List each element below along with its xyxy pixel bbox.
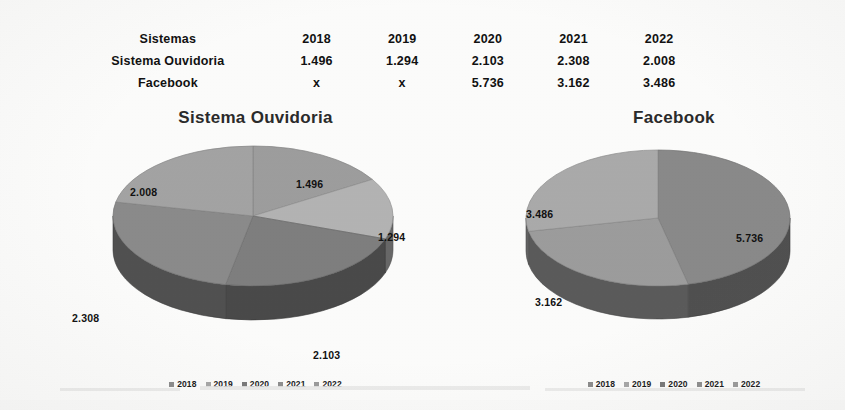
- legend-swatch-icon: [733, 382, 738, 387]
- cell-ouvidoria-2021: 2.308: [531, 50, 617, 72]
- legend-swatch-icon: [588, 382, 593, 387]
- scan-artifact: [60, 388, 180, 391]
- scan-artifact: [545, 388, 805, 391]
- pie-plot-area-right: 5.7363.1623.486: [480, 128, 840, 333]
- legend-label: 2018: [177, 379, 196, 389]
- cell-facebook-2020: 5.736: [445, 72, 531, 94]
- legend-swatch-icon: [169, 382, 174, 387]
- cell-facebook-2018: x: [274, 72, 360, 94]
- table-row: Sistema Ouvidoria 1.496 1.294 2.103 2.30…: [62, 50, 702, 72]
- legend-swatch-icon: [624, 382, 629, 387]
- chart-title-facebook: Facebook: [480, 100, 840, 128]
- pie-plot-area-left: 1.4961.2942.1032.3082.008: [58, 128, 453, 333]
- pie-data-label: 2.008: [130, 186, 157, 198]
- legend-swatch-icon: [697, 382, 702, 387]
- pie-svg-right: [480, 128, 840, 333]
- cell-facebook-2019: x: [359, 72, 445, 94]
- scan-artifact: [0, 400, 845, 410]
- cell-ouvidoria-2019: 1.294: [359, 50, 445, 72]
- table-header-cell-2021: 2021: [531, 28, 617, 50]
- table-row: Facebook x x 5.736 3.162 3.486: [62, 72, 702, 94]
- cell-facebook-2022: 3.486: [616, 72, 702, 94]
- cell-ouvidoria-2018: 1.496: [274, 50, 360, 72]
- table-header-row: Sistemas 2018 2019 2020 2021 2022: [62, 28, 702, 50]
- table-header-cell-2018: 2018: [274, 28, 360, 50]
- table-header-cell-2022: 2022: [616, 28, 702, 50]
- pie-data-label: 1.294: [378, 231, 405, 243]
- pie-data-label: 1.496: [296, 178, 323, 190]
- systems-data-table: Sistemas 2018 2019 2020 2021 2022 Sistem…: [62, 28, 702, 94]
- pie-data-label: 3.486: [526, 208, 553, 220]
- cell-ouvidoria-2022: 2.008: [616, 50, 702, 72]
- pie-top-face: [526, 150, 790, 286]
- row-label-sistema-ouvidoria: Sistema Ouvidoria: [62, 50, 274, 72]
- row-label-facebook: Facebook: [62, 72, 274, 94]
- cell-facebook-2021: 3.162: [531, 72, 617, 94]
- pie-data-label: 3.162: [535, 296, 562, 308]
- legend-swatch-icon: [660, 382, 665, 387]
- scan-artifact: [200, 386, 530, 390]
- table-header-cell-2019: 2019: [359, 28, 445, 50]
- pie-chart-sistema-ouvidoria: Sistema Ouvidoria 1.4961.2942.1032.3082.…: [58, 100, 453, 395]
- pie-chart-facebook: Facebook 5.7363.1623.486 201820192020202…: [480, 100, 840, 395]
- pie-data-label: 2.103: [313, 349, 340, 361]
- table-header-cell-systems: Sistemas: [62, 28, 274, 50]
- pie-top-face: [113, 146, 393, 286]
- table-header-cell-2020: 2020: [445, 28, 531, 50]
- pie-data-label: 5.736: [736, 232, 763, 244]
- cell-ouvidoria-2020: 2.103: [445, 50, 531, 72]
- pie-data-label: 2.308: [72, 312, 99, 324]
- chart-title-sistema-ouvidoria: Sistema Ouvidoria: [58, 100, 453, 128]
